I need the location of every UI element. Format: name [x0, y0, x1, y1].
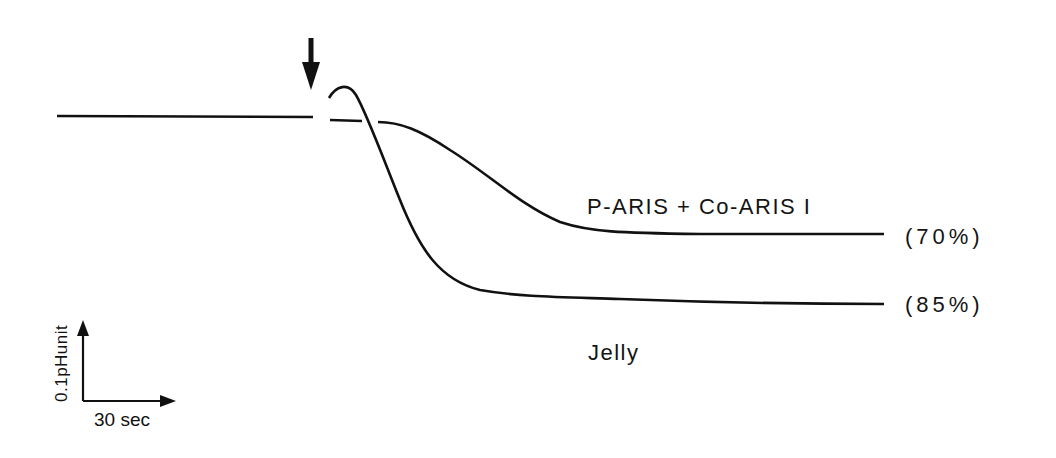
scale-bar — [77, 320, 176, 407]
baseline-trace — [57, 116, 313, 117]
series-label-jelly: Jelly — [588, 340, 640, 366]
series-pct-jelly: (85%) — [905, 292, 984, 318]
chart-canvas — [0, 0, 1056, 458]
scale-x-label: 30 sec — [94, 409, 150, 431]
scale-y-label: 0.1pHunit — [52, 325, 72, 402]
series-label-p-aris: P-ARIS + Co-ARIS I — [587, 194, 811, 220]
series-pct-p-aris: (70%) — [905, 224, 984, 250]
arrow-down-icon — [302, 38, 320, 90]
